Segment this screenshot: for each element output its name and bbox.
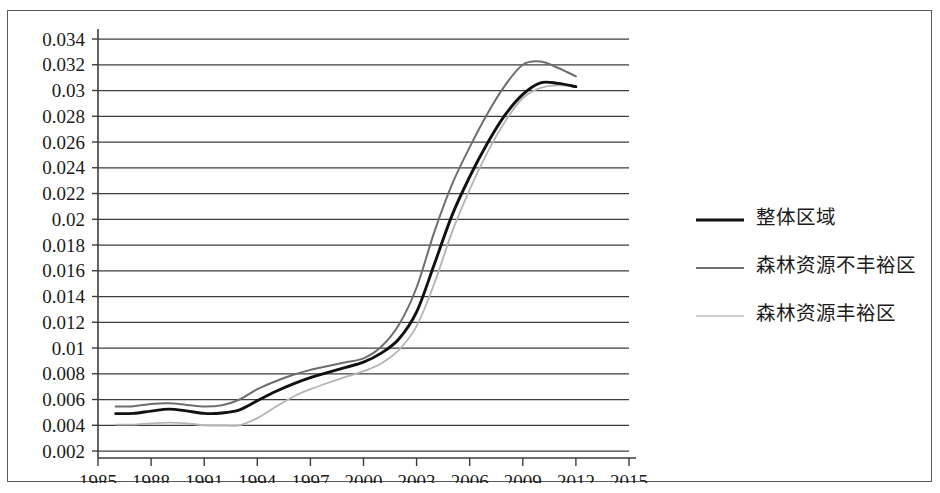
chart-figure: 0.0340.0320.030.0280.0260.0240.0220.020.… [7,10,932,482]
chart-plot-area: 0.0340.0320.030.0280.0260.0240.0220.020.… [8,11,931,481]
y-tick-group [92,39,98,451]
x-axis-labels: 1985198819911994199720002003200620092012… [79,471,648,483]
y-tick-label: 0.002 [42,441,85,462]
y-tick-label: 0.01 [52,338,85,359]
legend-label: 整体区域 [756,207,836,228]
legend: 整体区域森林资源不丰裕区森林资源丰裕区 [696,207,916,324]
series-line [116,85,576,426]
y-tick-label: 0.03 [52,80,85,101]
y-tick-label: 0.016 [42,260,85,281]
x-tick-label: 2012 [557,471,595,483]
y-tick-label: 0.014 [42,286,85,307]
x-tick-label: 2000 [345,471,383,483]
y-axis-labels: 0.0340.0320.030.0280.0260.0240.0220.020.… [42,29,85,462]
series-line [116,82,576,414]
x-tick-label: 2006 [451,471,489,483]
x-tick-label: 2009 [504,471,542,483]
line-chart-svg: 0.0340.0320.030.0280.0260.0240.0220.020.… [8,11,933,483]
y-tick-label: 0.004 [42,415,85,436]
y-tick-label: 0.024 [42,157,85,178]
gridline-group [98,39,629,451]
y-tick-label: 0.006 [42,389,85,410]
y-tick-label: 0.026 [42,132,85,153]
y-tick-label: 0.02 [52,209,85,230]
x-tick-label: 1988 [132,471,170,483]
y-tick-label: 0.018 [42,235,85,256]
legend-label: 森林资源丰裕区 [756,303,896,324]
y-tick-label: 0.008 [42,363,85,384]
y-tick-label: 0.028 [42,106,85,127]
x-tick-label: 2003 [398,471,436,483]
x-tick-label: 2015 [610,471,648,483]
y-tick-label: 0.022 [42,183,85,204]
x-tick-label: 1991 [185,471,223,483]
y-tick-label: 0.012 [42,312,85,333]
y-tick-label: 0.034 [42,29,85,50]
x-tick-label: 1985 [79,471,117,483]
x-axis-group [98,29,636,466]
x-tick-label: 1994 [238,471,277,483]
y-tick-label: 0.032 [42,54,85,75]
x-tick-label: 1997 [291,471,329,483]
legend-label: 森林资源不丰裕区 [756,255,916,276]
